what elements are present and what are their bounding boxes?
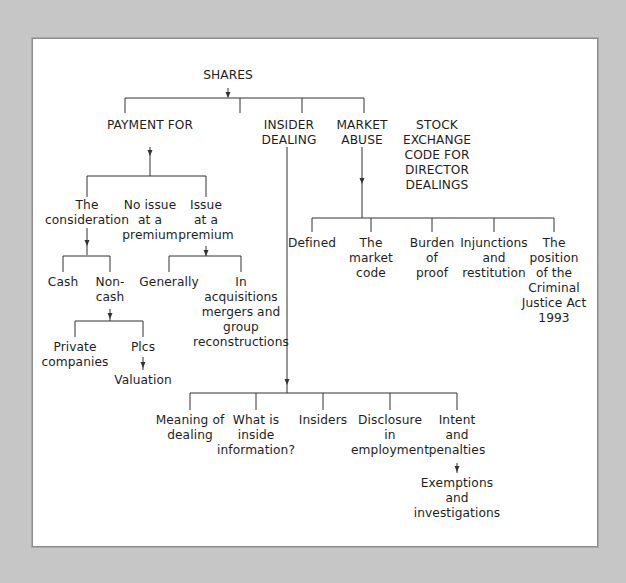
node-issue-at-premium: Issue at a premium — [178, 198, 234, 243]
node-payment-for: PAYMENT FOR — [107, 118, 193, 133]
node-no-issue-at-premium: No issue at a premium — [122, 198, 178, 243]
node-non-cash: Non- cash — [95, 275, 124, 305]
node-stock-exchange-code: STOCK EXCHANGE CODE FOR DIRECTOR DEALING… — [403, 118, 471, 193]
node-intent-and-penalties: Intent and penalties — [429, 413, 486, 458]
node-the-consideration: The consideration — [45, 198, 129, 228]
node-insiders: Insiders — [299, 413, 347, 428]
node-burden-of-proof: Burden of proof — [410, 236, 454, 281]
node-meaning-of-dealing: Meaning of dealing — [156, 413, 225, 443]
node-private-companies: Private companies — [41, 340, 108, 370]
node-injunctions-and-restitution: Injunctions and restitution — [460, 236, 528, 281]
node-disclosure-in-employment: Disclosure in employment — [351, 413, 429, 458]
node-generally: Generally — [139, 275, 199, 290]
node-exemptions-and-investigations: Exemptions and investigations — [414, 476, 501, 521]
node-plcs: Plcs — [131, 340, 155, 355]
node-criminal-justice-act: The position of the Criminal Justice Act… — [522, 236, 587, 326]
node-valuation: Valuation — [114, 373, 172, 388]
node-market-abuse: MARKET ABUSE — [336, 118, 387, 148]
node-cash: Cash — [48, 275, 78, 290]
node-shares: SHARES — [203, 68, 253, 83]
node-defined: Defined — [288, 236, 336, 251]
node-insider-dealing: INSIDER DEALING — [261, 118, 316, 148]
node-in-acquisitions: In acquisitions mergers and group recons… — [193, 275, 289, 350]
node-the-market-code: The market code — [349, 236, 393, 281]
node-what-is-inside-information: What is inside information? — [217, 413, 295, 458]
